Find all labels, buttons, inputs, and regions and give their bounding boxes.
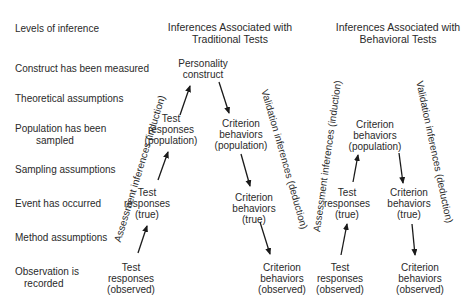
arrow-test-obs-to-test-true bbox=[138, 226, 147, 253]
arrow-bcrit-true-to-bcrit-obs bbox=[412, 224, 415, 255]
arrow-lines bbox=[138, 82, 415, 255]
arrow-test-pop-to-construct bbox=[180, 86, 190, 115]
arrow-bcrit-pop-to-bcrit-true bbox=[399, 153, 403, 183]
arrow-btest-obs-to-btest-true bbox=[341, 224, 347, 255]
arrow-crit-true-to-crit-obs bbox=[260, 222, 270, 254]
arrow-test-true-to-test-pop bbox=[158, 152, 168, 180]
arrow-construct-to-crit-pop bbox=[219, 82, 229, 113]
arrow-crit-pop-to-crit-true bbox=[241, 154, 250, 186]
arrow-btest-true-to-bcrit-pop bbox=[353, 155, 358, 182]
